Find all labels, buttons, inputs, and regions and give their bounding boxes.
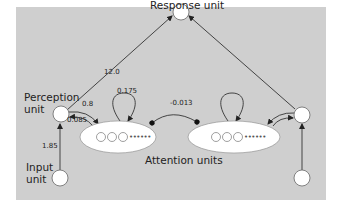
perception-unit-label-line2: unit [24, 103, 44, 115]
attention-unit [223, 133, 232, 142]
response-unit-label: Response unit [150, 0, 224, 11]
right-perception-unit-node [294, 107, 310, 123]
weight-attention-to-perception: 0.085 [67, 116, 87, 124]
weight-lateral-inhibition: -0.013 [170, 99, 193, 107]
weight-perception-to-response: 12.0 [104, 68, 120, 76]
right-input-unit-node [294, 170, 310, 186]
attention-units-label: Attention units [145, 154, 223, 166]
edge-perception-to-response [67, 16, 172, 110]
perception-unit-label-line1: Perception [24, 91, 80, 103]
edge-right-perception-to-attention [268, 113, 294, 124]
input-unit-node [52, 170, 68, 186]
edge-attention-self-loop-right [221, 93, 243, 121]
weight-input-to-perception: 1.85 [42, 142, 58, 150]
attention-unit [234, 133, 243, 142]
ellipse-dots-left: •••••• [129, 133, 151, 141]
weight-attention-self: 0.175 [117, 87, 137, 95]
edge-right-perception-to-response [189, 16, 295, 109]
input-unit-label-line1: Input [26, 161, 53, 173]
input-unit-label-line2: unit [26, 173, 46, 185]
attention-unit [119, 133, 128, 142]
edge-right-attention-to-perception [273, 118, 293, 126]
ellipse-dots-right: •••••• [244, 133, 266, 141]
attention-unit [97, 133, 106, 142]
attention-unit [108, 133, 117, 142]
edge-attention-self-loop-left [113, 93, 135, 121]
edge-attention-lateral-inhibition [152, 115, 197, 123]
weight-perception-to-attention: 0.8 [82, 100, 93, 108]
attention-unit [212, 133, 221, 142]
